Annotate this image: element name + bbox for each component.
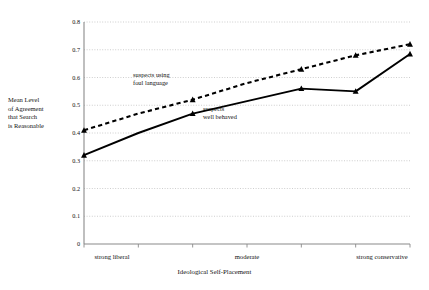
chart-figure: Mean Level of Agreement that Search is R…	[0, 0, 429, 290]
data-point-marker	[407, 51, 413, 57]
gridlines	[84, 22, 410, 216]
plot-svg	[0, 0, 429, 290]
series-layer	[81, 41, 413, 158]
axis-lines	[84, 22, 410, 244]
series-line-1	[84, 54, 410, 155]
